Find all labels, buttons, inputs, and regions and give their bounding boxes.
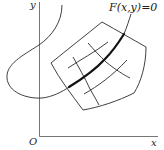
y-axis-label: y (29, 0, 36, 10)
grid-line-v2 (88, 43, 130, 78)
curve-continuation (124, 14, 131, 34)
patch-left-edge (51, 63, 83, 110)
grid-line-u1 (68, 42, 108, 68)
patch-top-edge (51, 22, 102, 63)
patch-bottom-edge (83, 93, 134, 110)
x-axis-label: x (151, 137, 157, 148)
origin-label: O (29, 136, 37, 147)
s-curve (7, 5, 69, 98)
patch-right-edge (102, 22, 146, 93)
diagram-canvas: y O x F(x,y)=0 (0, 0, 164, 150)
curve-label: F(x,y)=0 (108, 1, 157, 14)
